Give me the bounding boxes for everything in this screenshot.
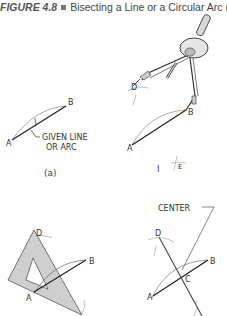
arc-mark-e-2 [174, 156, 177, 170]
center-label: CENTER [158, 204, 191, 213]
point-a-label: A [147, 293, 153, 302]
point-c-label: C [185, 275, 191, 284]
point-b-label: B [210, 257, 216, 266]
given-line [153, 260, 208, 296]
panel-ii: D A B [8, 229, 95, 315]
point-a-label: A [6, 139, 12, 148]
figure-drawing: A B GIVEN LINE OR ARC (a) D E A B I [0, 0, 227, 316]
point-d-label: D [36, 229, 42, 238]
given-line [132, 110, 186, 145]
panel-a-label: (a) [44, 168, 57, 178]
point-d-label: D [155, 229, 161, 238]
point-a-label: A [26, 294, 32, 303]
point-b-label: B [89, 257, 95, 266]
panel-iii: CENTER D C A B [147, 204, 216, 316]
arc-mark-d-2 [154, 246, 156, 256]
point-e-label: E [178, 163, 182, 171]
panel-i-label: I [157, 164, 160, 174]
note-leader [31, 130, 40, 137]
point-a-label: A [127, 144, 133, 153]
note-line-2: OR ARC [46, 143, 77, 152]
triangle-icon [8, 230, 82, 315]
note-line-1: GIVEN LINE [42, 133, 87, 142]
panel-i: D E A B I [127, 14, 211, 174]
arc-mark-e [82, 300, 85, 314]
panel-a: A B GIVEN LINE OR ARC (a) [6, 98, 87, 178]
compass-icon [133, 14, 211, 110]
bisector-line [159, 237, 202, 316]
arc-mark-d-2 [133, 95, 136, 105]
point-b-label: B [68, 98, 74, 107]
point-b-label: B [188, 108, 194, 117]
